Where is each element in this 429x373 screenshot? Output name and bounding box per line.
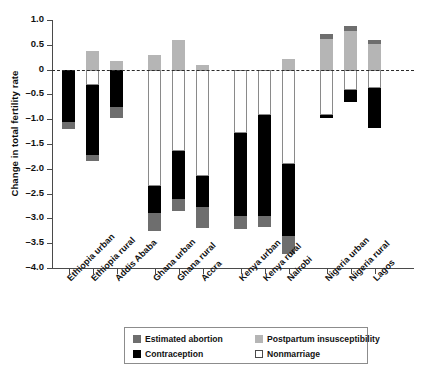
y-tick-label: 0.5 <box>31 38 44 49</box>
bar-segment <box>258 70 271 116</box>
bar-segment <box>368 70 381 89</box>
legend-label: Contraception <box>145 349 203 359</box>
legend-swatch-icon <box>255 335 263 343</box>
bar-segment <box>172 199 185 211</box>
y-tick-label: –2.5 <box>26 187 45 198</box>
y-tick-label: 0 <box>39 63 44 74</box>
bar[interactable] <box>234 20 247 268</box>
bar[interactable] <box>344 20 357 268</box>
legend-swatch-icon <box>255 350 263 358</box>
y-tick-mark <box>47 268 52 269</box>
fertility-change-chart: Change in total fertility rate 1.00.50–0… <box>0 0 429 373</box>
bar[interactable] <box>258 20 271 268</box>
bar-segment <box>344 70 357 91</box>
bar-segment <box>86 70 99 86</box>
legend-swatch-icon <box>133 335 141 343</box>
legend-item[interactable]: Contraception <box>133 349 203 359</box>
y-tick-mark <box>47 94 52 95</box>
bar-segment <box>62 122 75 129</box>
bar-segment <box>282 59 295 70</box>
y-tick-mark <box>47 243 52 244</box>
bar-segment <box>148 186 161 213</box>
y-tick-mark <box>47 194 52 195</box>
zero-reference-line <box>52 70 414 71</box>
y-tick-label: 1.0 <box>31 13 44 24</box>
y-tick-mark <box>47 20 52 21</box>
bar-segment <box>368 88 381 128</box>
y-tick-label: –1.0 <box>26 112 45 123</box>
bar-segment <box>86 155 99 161</box>
legend-label: Estimated abortion <box>145 334 223 344</box>
chart-legend: Estimated abortionPostpartum insusceptib… <box>124 327 368 364</box>
bar-segment <box>234 216 247 229</box>
bar-segment <box>234 133 247 216</box>
bar-segment <box>258 216 271 227</box>
y-tick-mark <box>47 45 52 46</box>
y-tick-mark <box>47 144 52 145</box>
bar[interactable] <box>62 20 75 268</box>
bar-segment <box>172 151 185 199</box>
bar-segment <box>320 115 333 117</box>
y-tick-mark <box>47 218 52 219</box>
bar-segment <box>110 61 123 69</box>
bar-segment <box>196 70 209 177</box>
bar-segment <box>258 115 271 216</box>
y-tick-mark <box>47 169 52 170</box>
bar-segment <box>172 40 185 70</box>
bar[interactable] <box>148 20 161 268</box>
bar-segment <box>234 70 247 133</box>
y-tick-label: –3.0 <box>26 211 45 222</box>
legend-label: Nonmarriage <box>267 349 320 359</box>
legend-item[interactable]: Postpartum insusceptibility <box>255 334 380 344</box>
legend-item[interactable]: Nonmarriage <box>255 349 320 359</box>
bar[interactable] <box>172 20 185 268</box>
y-tick-label: –1.5 <box>26 137 45 148</box>
legend-item[interactable]: Estimated abortion <box>133 334 223 344</box>
bar-segment <box>196 207 209 228</box>
y-axis-title: Change in total fertility rate <box>9 54 20 214</box>
bar-segment <box>320 70 333 116</box>
bar-segment <box>148 70 161 187</box>
bar-segment <box>282 164 295 236</box>
plot-area: 1.00.50–0.5–1.0–1.5–2.0–2.5–3.0–3.5–4.0 <box>52 20 414 268</box>
bar[interactable] <box>282 20 295 268</box>
bar-segment <box>148 213 161 231</box>
bar[interactable] <box>86 20 99 268</box>
y-tick-label: –3.5 <box>26 236 45 247</box>
legend-label: Postpartum insusceptibility <box>267 334 380 344</box>
bar-segment <box>344 90 357 101</box>
bar-segment <box>62 70 75 122</box>
legend-swatch-icon <box>133 350 141 358</box>
bar-segment <box>86 85 99 154</box>
y-tick-label: –2.0 <box>26 162 45 173</box>
bar-segment <box>368 44 381 70</box>
bar-segment <box>110 70 123 107</box>
bar[interactable] <box>196 20 209 268</box>
bar[interactable] <box>110 20 123 268</box>
y-tick-label: –4.0 <box>26 261 45 272</box>
bar-segment <box>148 55 161 70</box>
bar-segment <box>282 70 295 164</box>
y-tick-label: –0.5 <box>26 87 45 98</box>
bar-segment <box>320 39 333 70</box>
bar-segment <box>172 70 185 152</box>
bar[interactable] <box>320 20 333 268</box>
bar-segment <box>196 176 209 207</box>
y-axis-line <box>52 20 53 269</box>
bar[interactable] <box>368 20 381 268</box>
y-tick-mark <box>47 119 52 120</box>
bar-segment <box>344 31 357 70</box>
bar-segment <box>86 51 99 70</box>
bar-segment <box>110 107 123 118</box>
